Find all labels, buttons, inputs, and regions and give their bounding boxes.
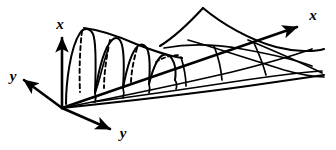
figure-container: x x y y xyxy=(0,0,336,150)
fold-right-descend xyxy=(203,8,324,51)
grid-line-1 xyxy=(95,93,96,102)
grid-line-7 xyxy=(254,43,266,75)
axis-front-y-line xyxy=(62,108,110,129)
grid-line-5 xyxy=(181,57,186,86)
grid-line-3 xyxy=(149,84,150,93)
axis-label-depth-x: x xyxy=(308,7,317,23)
base-front-edge xyxy=(62,75,324,108)
fold-left-rise xyxy=(160,8,203,46)
hidden-curve-1 xyxy=(80,31,82,92)
axis-left-y-line xyxy=(24,80,62,108)
axis-label-left-y: y xyxy=(8,68,17,84)
axis-label-front-y: y xyxy=(118,125,127,141)
ridge-2-front xyxy=(95,38,124,93)
surface-plot-diagram: x x y y xyxy=(0,0,336,150)
grid-line-2 xyxy=(123,88,124,98)
axis-label-vertical-x: x xyxy=(55,16,64,32)
